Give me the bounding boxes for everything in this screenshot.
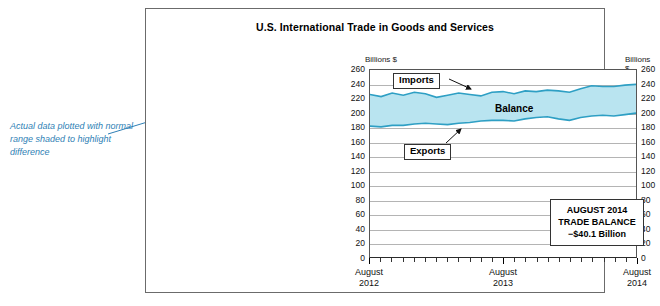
x-axis-tick bbox=[637, 258, 638, 264]
x-axis-tick bbox=[470, 258, 471, 262]
y-axis-tick-label: 180 bbox=[641, 123, 660, 132]
status-badge: AUGUST 2014 TRADE BALANCE −$40.1 Billion bbox=[550, 199, 644, 246]
y-axis-tick-label: 40 bbox=[343, 225, 365, 234]
y-axis-tick-label: 140 bbox=[343, 152, 365, 161]
x-axis-tick bbox=[581, 258, 582, 262]
x-axis-tick bbox=[391, 258, 392, 262]
exports-label: Exports bbox=[404, 144, 451, 160]
y-axis-tick-label: 240 bbox=[641, 80, 660, 89]
page-title: U.S. International Trade in Goods and Se… bbox=[146, 21, 604, 33]
balance-label: Balance bbox=[495, 103, 533, 114]
y-axis-tick-label: 220 bbox=[343, 94, 365, 103]
y-axis-tick-label: 160 bbox=[641, 138, 660, 147]
stat-box-line-1: AUGUST 2014 bbox=[553, 204, 641, 216]
units-label-left: Billions $ bbox=[365, 55, 397, 64]
x-axis-tick bbox=[414, 258, 415, 262]
y-axis-tick-label: 180 bbox=[343, 123, 365, 132]
x-axis-tick-label: August2014 bbox=[602, 267, 660, 290]
y-axis-tick-label: 60 bbox=[343, 210, 365, 219]
x-axis-tick bbox=[436, 258, 437, 262]
imports-label: Imports bbox=[393, 73, 440, 89]
y-axis-tick-label: 100 bbox=[641, 181, 660, 190]
x-axis-tick bbox=[481, 258, 482, 262]
x-axis-tick bbox=[592, 258, 593, 262]
x-axis-tick bbox=[514, 258, 515, 262]
x-axis-tick bbox=[492, 258, 493, 262]
y-axis-tick-label: 0 bbox=[641, 254, 660, 263]
x-axis-tick bbox=[548, 258, 549, 262]
x-axis-tick bbox=[615, 258, 616, 262]
x-axis-tick bbox=[380, 258, 381, 262]
x-axis-tick bbox=[503, 258, 504, 264]
x-axis-tick bbox=[447, 258, 448, 262]
x-axis-tick bbox=[537, 258, 538, 262]
x-axis-tick bbox=[425, 258, 426, 262]
x-axis-tick bbox=[525, 258, 526, 262]
x-axis-tick bbox=[626, 258, 627, 262]
y-axis-tick-label: 80 bbox=[343, 196, 365, 205]
x-axis-tick bbox=[458, 258, 459, 262]
x-axis-ticks bbox=[369, 258, 637, 264]
y-axis-tick-label: 0 bbox=[343, 254, 365, 263]
x-axis-tick bbox=[570, 258, 571, 262]
x-axis-tick bbox=[369, 258, 370, 264]
y-axis-tick-label: 200 bbox=[343, 109, 365, 118]
y-axis-tick-label: 20 bbox=[343, 239, 365, 248]
y-axis-tick-label: 160 bbox=[343, 138, 365, 147]
y-axis-tick-label: 120 bbox=[641, 167, 660, 176]
y-axis-left: 020406080100120140160180200220240260 bbox=[341, 69, 365, 258]
chart-figure-frame: U.S. International Trade in Goods and Se… bbox=[145, 8, 605, 293]
y-axis-tick-label: 100 bbox=[343, 181, 365, 190]
x-axis-tick bbox=[403, 258, 404, 262]
y-axis-tick-label: 260 bbox=[343, 65, 365, 74]
x-axis-tick-label: August2012 bbox=[334, 267, 404, 290]
x-axis-tick-label: August2013 bbox=[468, 267, 538, 290]
stat-box-line-2: TRADE BALANCE bbox=[553, 216, 641, 228]
x-axis-tick bbox=[604, 258, 605, 262]
x-axis-tick bbox=[559, 258, 560, 262]
stat-box-line-3: −$40.1 Billion bbox=[553, 228, 641, 240]
y-axis-tick-label: 260 bbox=[641, 65, 660, 74]
y-axis-tick-label: 140 bbox=[641, 152, 660, 161]
y-axis-tick-label: 200 bbox=[641, 109, 660, 118]
y-axis-tick-label: 240 bbox=[343, 80, 365, 89]
y-axis-tick-label: 120 bbox=[343, 167, 365, 176]
y-axis-tick-label: 220 bbox=[641, 94, 660, 103]
